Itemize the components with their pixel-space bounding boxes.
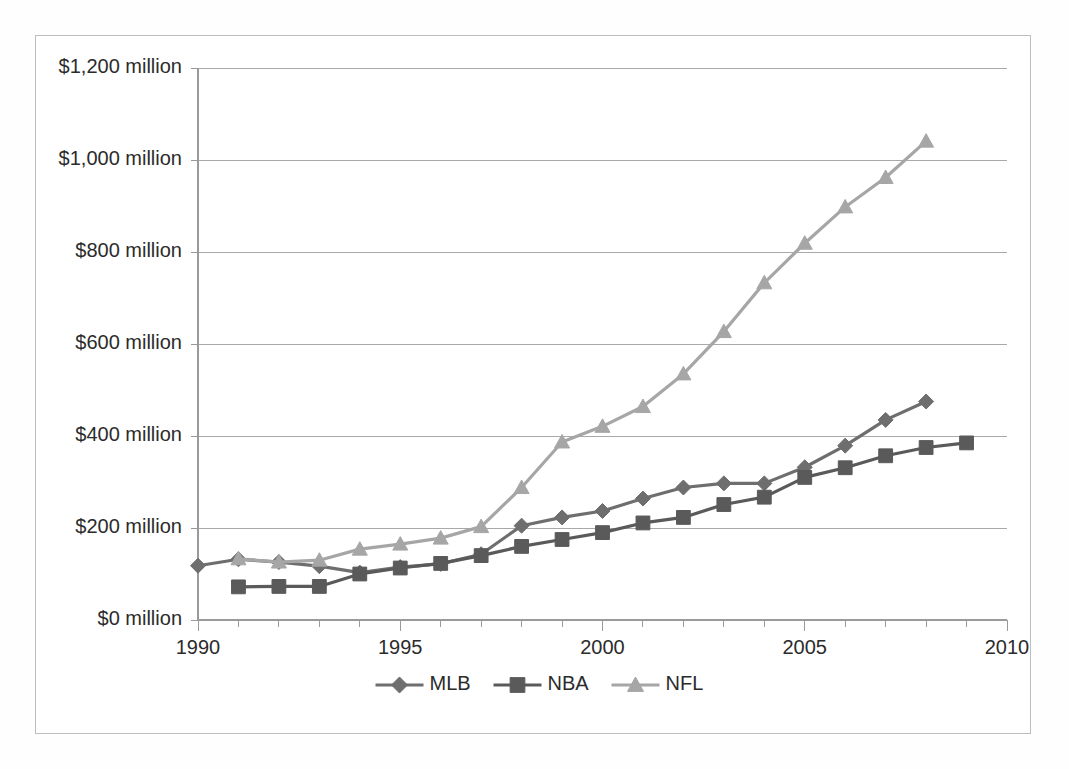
x-tick-label: 2000 [580, 636, 625, 658]
x-tick-label: 1995 [378, 636, 423, 658]
data-point-marker [716, 476, 731, 491]
y-axis [191, 68, 198, 620]
legend-item-nba[interactable]: NBA [494, 672, 590, 694]
series-line [198, 402, 926, 573]
data-point-marker [677, 511, 691, 525]
data-point-marker [595, 419, 610, 433]
legend-marker-square [510, 678, 525, 693]
x-axis [198, 620, 1007, 631]
data-point-marker [595, 503, 610, 518]
chart-legend: MLBNBANFL [376, 672, 704, 694]
data-point-marker [919, 134, 934, 148]
data-point-marker [434, 557, 448, 571]
data-point-marker [635, 491, 650, 506]
data-series [191, 134, 974, 594]
x-tick-label: 1990 [176, 636, 221, 658]
data-point-marker [555, 510, 570, 525]
data-point-marker [878, 412, 893, 427]
series-mlb [191, 394, 934, 580]
data-point-marker [636, 516, 650, 530]
data-point-marker [838, 461, 852, 475]
legend-item-mlb[interactable]: MLB [376, 672, 471, 694]
data-point-marker [757, 476, 772, 491]
data-point-marker [879, 449, 893, 463]
data-point-marker [191, 558, 206, 573]
data-point-marker [838, 438, 853, 453]
data-point-marker [717, 498, 731, 512]
chart-container: $0 million$200 million$400 million$600 m… [0, 0, 1069, 769]
y-tick-label: $400 million [75, 423, 182, 445]
data-point-marker [757, 490, 771, 504]
data-point-marker [232, 580, 246, 594]
y-tick-label: $200 million [75, 515, 182, 537]
data-point-marker [555, 533, 569, 547]
x-tick-label: 2005 [783, 636, 828, 658]
legend-item-nfl[interactable]: NFL [612, 672, 704, 694]
legend-label: NFL [666, 672, 704, 694]
data-point-marker [312, 580, 326, 594]
data-point-marker [393, 561, 407, 575]
y-tick-label: $0 million [98, 607, 182, 629]
data-point-marker [960, 436, 974, 450]
series-nfl [231, 134, 934, 568]
x-tick-label: 2010 [985, 636, 1030, 658]
data-point-marker [676, 480, 691, 495]
y-tick-label: $600 million [75, 331, 182, 353]
data-point-marker [596, 526, 610, 540]
data-point-marker [272, 580, 286, 594]
data-point-marker [798, 471, 812, 485]
legend-label: NBA [548, 672, 590, 694]
y-tick-label: $1,000 million [59, 147, 182, 169]
data-point-marker [919, 441, 933, 455]
data-point-marker [515, 540, 529, 554]
x-tick-labels: 19901995200020052010 [176, 636, 1030, 658]
y-tick-labels: $0 million$200 million$400 million$600 m… [59, 55, 182, 629]
line-chart: $0 million$200 million$400 million$600 m… [0, 0, 1069, 769]
y-tick-label: $800 million [75, 239, 182, 261]
data-point-marker [919, 394, 934, 409]
y-tick-label: $1,200 million [59, 55, 182, 77]
data-point-marker [353, 567, 367, 581]
series-line [238, 141, 926, 562]
legend-marker-diamond [392, 677, 408, 693]
data-point-marker [474, 549, 488, 563]
legend-label: MLB [430, 672, 471, 694]
